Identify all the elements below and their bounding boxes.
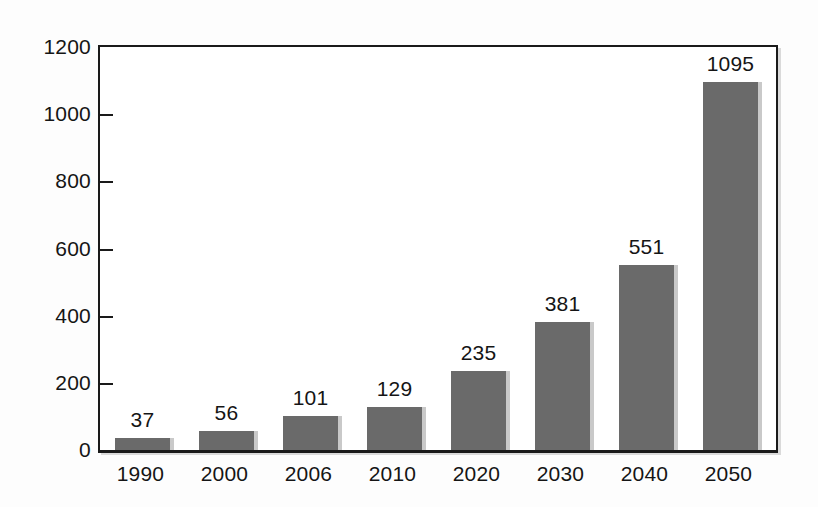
- y-tick-label: 1000: [43, 102, 100, 126]
- bar-value-label: 101: [293, 386, 329, 410]
- bar-value-label: 235: [461, 341, 497, 365]
- bar-value-label: 551: [629, 235, 665, 259]
- bar-2000: 56: [199, 43, 254, 450]
- bar-rect: [199, 431, 254, 450]
- plot-area: 020040060080010001200 375610112923538155…: [98, 45, 778, 452]
- bar-2010: 129: [367, 43, 422, 450]
- bar-rect: [283, 416, 338, 450]
- x-tick-label-1990: 1990: [96, 462, 186, 486]
- x-axis-baseline: [98, 450, 778, 453]
- y-tick-label: 1200: [43, 35, 100, 59]
- chart-page: 020040060080010001200 375610112923538155…: [0, 0, 818, 507]
- y-tick-label: 800: [55, 169, 100, 193]
- x-tick-label-2030: 2030: [516, 462, 606, 486]
- bar-2020: 235: [451, 43, 506, 450]
- bar-rect: [703, 82, 758, 450]
- bar-1990: 37: [115, 43, 170, 450]
- bar-rect: [367, 407, 422, 450]
- bar-2050: 1095: [703, 43, 758, 450]
- y-tick-label: 600: [55, 237, 100, 261]
- bar-value-label: 56: [215, 401, 239, 425]
- bar-rect: [451, 371, 506, 450]
- y-tick-label: 0: [79, 438, 100, 462]
- bar-series: 37561011292353815511095: [100, 47, 776, 450]
- x-tick-label-2040: 2040: [600, 462, 690, 486]
- bar-value-label: 1095: [707, 52, 755, 76]
- x-tick-label-2006: 2006: [264, 462, 354, 486]
- x-tick-label-2050: 2050: [684, 462, 774, 486]
- bar-value-label: 129: [377, 377, 413, 401]
- bar-2030: 381: [535, 43, 590, 450]
- x-tick-label-2020: 2020: [432, 462, 522, 486]
- bar-rect: [619, 265, 674, 450]
- bar-rect: [115, 438, 170, 450]
- x-tick-label-2000: 2000: [180, 462, 270, 486]
- y-tick-label: 400: [55, 304, 100, 328]
- bar-rect: [535, 322, 590, 450]
- bar-2040: 551: [619, 43, 674, 450]
- bar-2006: 101: [283, 43, 338, 450]
- x-tick-label-2010: 2010: [348, 462, 438, 486]
- bar-value-label: 381: [545, 292, 581, 316]
- y-tick-label: 200: [55, 371, 100, 395]
- bar-value-label: 37: [131, 408, 155, 432]
